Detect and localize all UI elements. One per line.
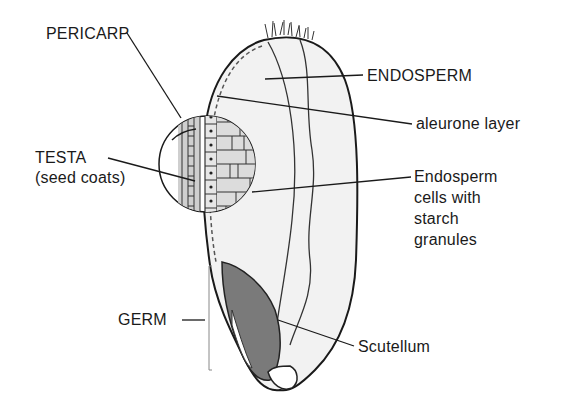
label-endosperm-cells-line3: starch: [414, 208, 498, 229]
label-testa-line2: (seed coats): [35, 168, 125, 188]
pericarp-leader: [127, 33, 181, 118]
label-endosperm-cells-line4: granules: [414, 229, 498, 250]
label-endosperm-cells: Endosperm cells with starch granules: [414, 166, 498, 250]
label-endosperm: ENDOSPERM: [367, 66, 472, 86]
label-endosperm-cells-line1: Endosperm: [414, 166, 498, 187]
label-scutellum: Scutellum: [358, 337, 430, 357]
germ-bracket: [209, 266, 212, 370]
label-testa: TESTA (seed coats): [35, 148, 125, 188]
label-germ: GERM: [118, 310, 167, 330]
label-endosperm-cells-line2: cells with: [414, 187, 498, 208]
label-testa-line1: TESTA: [35, 148, 125, 168]
label-aleurone-layer: aleurone layer: [416, 114, 520, 134]
label-pericarp: PERICARP: [46, 24, 129, 44]
